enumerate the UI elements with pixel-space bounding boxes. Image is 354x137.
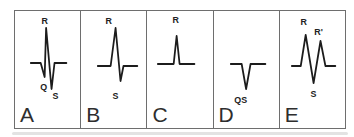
wave-label-r: R — [300, 17, 307, 27]
qrs-trace-b — [98, 28, 138, 81]
qrs-morphology-figure: R Q S A R S B R C QS D R R' — [14, 10, 346, 129]
panel-b: R S B — [80, 11, 146, 128]
qrs-trace-c — [158, 36, 195, 64]
qrs-trace-e — [292, 35, 335, 83]
wave-label-s: S — [310, 89, 316, 99]
panel-a: R Q S A — [15, 11, 80, 128]
wave-label-s: S — [53, 91, 59, 101]
wave-label-r-prime: R' — [314, 27, 323, 37]
qrs-trace-a — [31, 28, 67, 89]
wave-label-s: S — [113, 91, 119, 101]
wave-label-q: Q — [40, 82, 47, 92]
qrs-trace-d — [230, 64, 265, 89]
scan-artifact-line — [12, 132, 348, 135]
panel-letter-a: A — [20, 104, 34, 125]
wave-label-r: R — [41, 16, 48, 26]
wave-label-r: R — [173, 15, 180, 25]
wave-label-qs: QS — [234, 95, 247, 105]
panel-letter-d: D — [219, 104, 234, 125]
panel-e: R R' S E — [279, 11, 345, 128]
wave-label-r: R — [106, 16, 113, 26]
panel-letter-e: E — [285, 104, 299, 125]
panel-d: QS D — [213, 11, 279, 128]
panel-letter-b: B — [86, 104, 100, 125]
panel-letter-c: C — [152, 104, 167, 125]
panel-c: R C — [146, 11, 212, 128]
